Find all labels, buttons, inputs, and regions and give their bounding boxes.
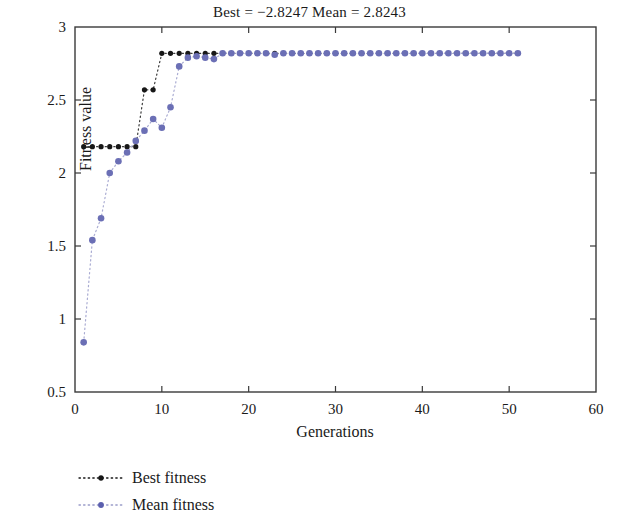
legend-label-mean-fitness: Mean fitness: [132, 496, 214, 514]
legend-label-best-fitness: Best fitness: [132, 469, 206, 487]
data-point-marker: [125, 144, 130, 149]
data-point-marker: [202, 54, 209, 61]
data-point-marker: [506, 50, 513, 57]
data-point-marker: [193, 53, 200, 60]
data-point-marker: [410, 50, 417, 57]
data-point-marker: [176, 63, 183, 70]
data-point-marker: [116, 144, 121, 149]
y-tick-label: 0.5: [47, 384, 66, 400]
data-point-marker: [271, 51, 278, 58]
data-point-marker: [115, 158, 122, 165]
chart-legend: Best fitness Mean fitness: [78, 466, 214, 517]
data-point-marker: [315, 50, 322, 57]
y-tick-label: 2.5: [47, 92, 66, 108]
data-point-marker: [436, 50, 443, 57]
data-point-marker: [384, 50, 391, 57]
data-point-marker: [228, 50, 235, 57]
data-point-marker: [445, 50, 452, 57]
data-point-marker: [107, 144, 112, 149]
legend-swatch-best-fitness: [78, 471, 124, 485]
x-tick-label: 50: [502, 401, 517, 417]
data-point-marker: [419, 50, 426, 57]
data-point-marker: [341, 50, 348, 57]
data-point-marker: [402, 50, 409, 57]
data-point-marker: [98, 144, 103, 149]
data-point-marker: [81, 144, 86, 149]
data-point-marker: [358, 50, 365, 57]
data-point-marker: [480, 50, 487, 57]
data-point-marker: [454, 50, 461, 57]
x-tick-label: 10: [154, 401, 169, 417]
data-point-marker: [80, 339, 87, 346]
data-point-marker: [106, 170, 113, 177]
series-line: [84, 53, 518, 146]
data-point-marker: [245, 50, 252, 57]
data-point-marker: [489, 50, 496, 57]
x-tick-label: 30: [328, 401, 343, 417]
data-point-marker: [168, 51, 173, 56]
data-point-marker: [254, 50, 261, 57]
data-point-marker: [280, 50, 287, 57]
y-tick-label: 2: [59, 165, 67, 181]
data-point-marker: [89, 237, 96, 244]
series-line: [84, 53, 518, 342]
data-point-marker: [185, 54, 192, 61]
data-point-marker: [98, 215, 105, 222]
axis-frame: [75, 27, 596, 392]
data-point-marker: [324, 50, 331, 57]
legend-swatch-mean-fitness: [78, 498, 124, 512]
data-point-marker: [124, 149, 131, 156]
data-point-marker: [237, 50, 244, 57]
data-series-layer: [80, 50, 521, 346]
data-point-marker: [471, 50, 478, 57]
data-point-marker: [350, 50, 357, 57]
x-tick-label: 0: [71, 401, 79, 417]
fitness-chart-figure: Best = −2.8247 Mean = 2.8243 Fitness val…: [0, 0, 619, 519]
data-point-marker: [332, 50, 339, 57]
y-tick-label: 1: [59, 311, 67, 327]
data-point-marker: [497, 50, 504, 57]
data-point-marker: [132, 138, 139, 145]
y-tick-label: 1.5: [47, 238, 66, 254]
data-point-marker: [393, 50, 400, 57]
x-tick-label: 40: [415, 401, 430, 417]
data-point-marker: [367, 50, 374, 57]
data-point-marker: [159, 124, 166, 131]
data-point-marker: [167, 104, 174, 111]
data-point-marker: [142, 87, 147, 92]
x-tick-label: 20: [241, 401, 256, 417]
data-point-marker: [306, 50, 313, 57]
data-point-marker: [462, 50, 469, 57]
data-point-marker: [289, 50, 296, 57]
legend-item-best-fitness: Best fitness: [78, 466, 214, 490]
legend-item-mean-fitness: Mean fitness: [78, 493, 214, 517]
data-point-marker: [263, 50, 270, 57]
data-point-marker: [219, 50, 226, 57]
data-point-marker: [151, 87, 156, 92]
data-point-marker: [428, 50, 435, 57]
data-point-marker: [133, 144, 138, 149]
x-axis-ticks: 0102030405060: [71, 27, 603, 417]
plot-area: 0102030405060 0.511.522.53 Generations: [0, 0, 619, 460]
data-point-marker: [150, 116, 157, 123]
data-point-marker: [90, 144, 95, 149]
data-point-marker: [177, 51, 182, 56]
data-point-marker: [297, 50, 304, 57]
data-point-marker: [211, 56, 218, 63]
data-point-marker: [515, 50, 522, 57]
y-tick-label: 3: [59, 19, 67, 35]
x-axis-title: Generations: [296, 423, 373, 440]
data-point-marker: [159, 51, 164, 56]
y-axis-ticks: 0.511.522.53: [47, 19, 596, 400]
data-point-marker: [376, 50, 383, 57]
x-tick-label: 60: [589, 401, 604, 417]
data-point-marker: [141, 127, 148, 134]
data-point-marker: [211, 51, 216, 56]
